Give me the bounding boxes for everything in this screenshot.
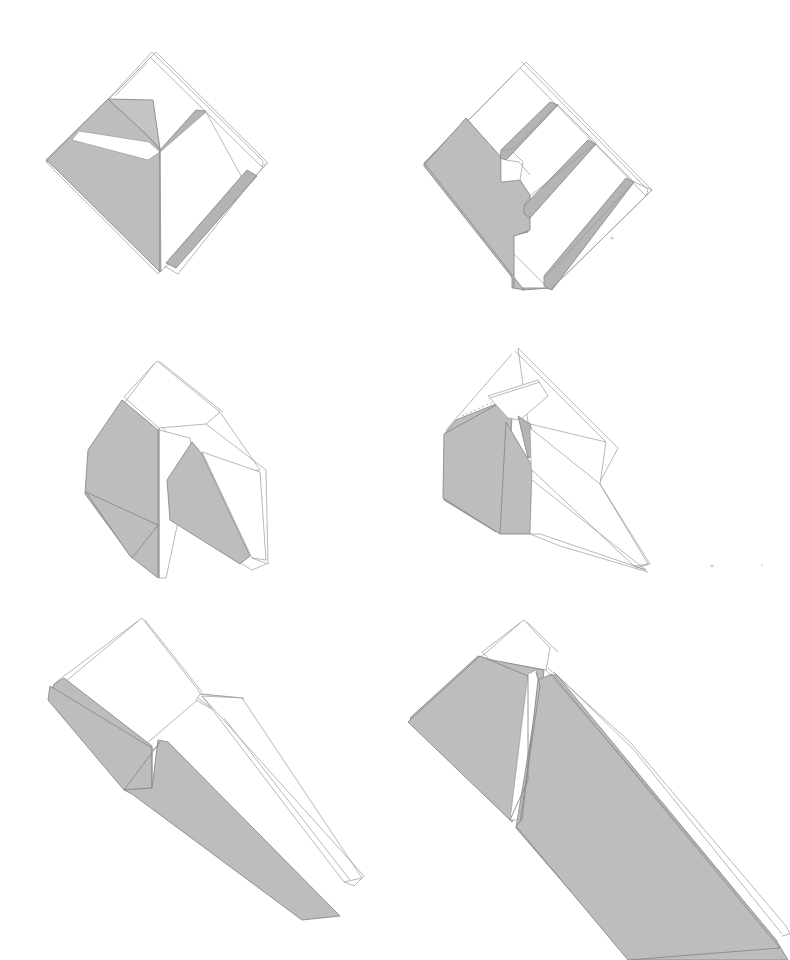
step3-outer-rim-2 bbox=[242, 564, 266, 570]
step-3-figure bbox=[60, 320, 360, 600]
step-4-figure bbox=[420, 320, 740, 610]
step6-right-grey-main bbox=[516, 674, 780, 960]
step-2-figure bbox=[400, 0, 730, 300]
step-1-figure bbox=[0, 0, 300, 300]
step6-rim-tip bbox=[782, 926, 790, 936]
speck-top-right bbox=[611, 237, 613, 239]
speck-mark bbox=[710, 564, 713, 567]
step-5-figure bbox=[10, 590, 410, 930]
step6-grey-left-main bbox=[408, 656, 528, 820]
speck-middle-right bbox=[761, 564, 763, 566]
step-6-figure bbox=[380, 590, 790, 960]
